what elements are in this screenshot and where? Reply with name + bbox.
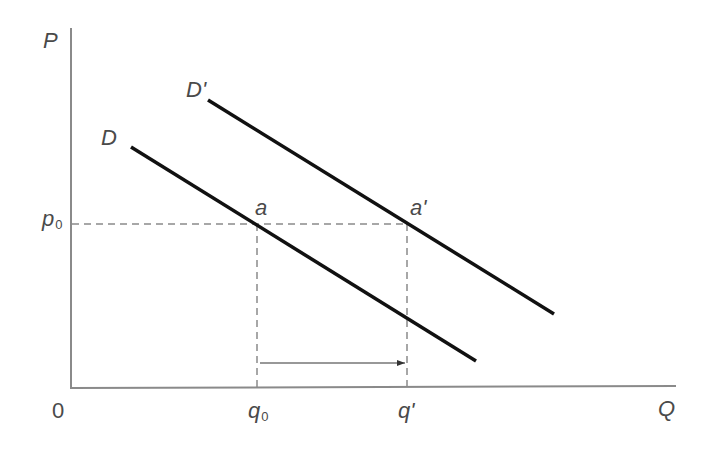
demand-shift-diagram: P Q 0 D D' a a' p0 q0 q'	[0, 0, 711, 451]
x-axis-label: Q	[658, 398, 675, 420]
demand-curve-d	[131, 147, 476, 361]
price-label-p0-base: p	[42, 206, 54, 231]
quantity-label-q0: q0	[248, 400, 268, 423]
y-axis-label: P	[43, 30, 58, 52]
origin-label: 0	[52, 400, 64, 422]
price-label-p0: p0	[42, 208, 62, 231]
quantity-label-q0-base: q	[248, 398, 260, 423]
quantity-label-q0-subscript: 0	[261, 409, 268, 424]
point-label-a: a	[255, 197, 267, 219]
x-axis	[70, 386, 676, 388]
quantity-label-q-prime: q'	[398, 400, 414, 422]
price-label-p0-subscript: 0	[55, 217, 62, 232]
diagram-canvas	[0, 0, 711, 451]
curve-label-d: D	[101, 127, 117, 149]
curve-label-d-prime: D'	[186, 79, 206, 101]
point-label-a-prime: a'	[410, 197, 426, 219]
